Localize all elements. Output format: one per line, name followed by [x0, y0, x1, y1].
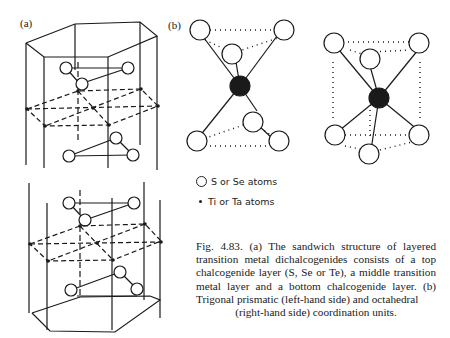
- figure-caption: Fig. 4.83. (a) The sandwich structure of…: [196, 240, 436, 319]
- legend-chalcogen: S or Se atoms: [196, 176, 277, 187]
- legend-chalcogen-label: S or Se atoms: [211, 176, 277, 187]
- trigonal-prismatic-unit: [187, 20, 294, 151]
- lower-prism: [28, 182, 163, 332]
- legend-metal-label: Ti or Ta atoms: [208, 196, 275, 207]
- open-circle-icon: [196, 176, 207, 187]
- octahedral-unit: [324, 33, 429, 164]
- upper-prism: [25, 22, 160, 170]
- caption-last-line: (right-hand side) coordination units.: [196, 306, 436, 319]
- legend-metal: Ti or Ta atoms: [196, 196, 275, 207]
- caption-number: Fig. 4.83.: [196, 240, 243, 252]
- filled-dot-icon: [199, 200, 202, 203]
